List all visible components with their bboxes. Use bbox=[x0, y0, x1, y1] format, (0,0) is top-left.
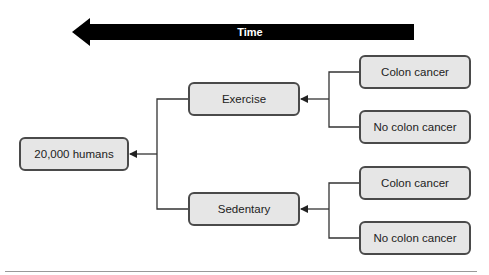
outcome-node-sedentary-no-colon-cancer: No colon cancer bbox=[359, 221, 471, 255]
outcome-node-exercise-colon-cancer: Colon cancer bbox=[359, 55, 471, 89]
bottom-divider bbox=[5, 271, 477, 272]
root-node: 20,000 humans bbox=[19, 137, 129, 171]
root-connector bbox=[130, 99, 188, 209]
sedentary-connector bbox=[301, 183, 359, 238]
outcome-node-exercise-no-colon-cancer: No colon cancer bbox=[359, 110, 471, 144]
time-label: Time bbox=[180, 23, 320, 41]
group-node-exercise: Exercise bbox=[188, 82, 300, 116]
group-node-sedentary: Sedentary bbox=[188, 192, 300, 226]
outcome-node-sedentary-colon-cancer: Colon cancer bbox=[359, 166, 471, 200]
exercise-connector bbox=[301, 72, 359, 127]
